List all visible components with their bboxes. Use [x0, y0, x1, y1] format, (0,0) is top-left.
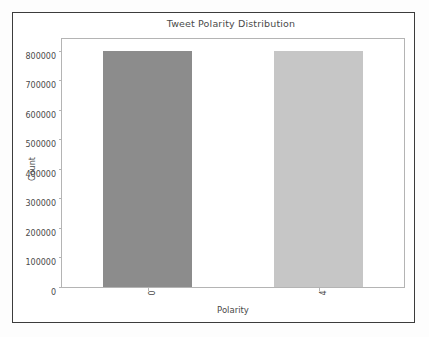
y-tick-label: 400000 [25, 169, 56, 178]
y-tick-mark [59, 110, 63, 111]
y-tick-label: 300000 [25, 199, 56, 208]
x-tick-label: 4 [319, 290, 328, 295]
y-tick-mark [59, 51, 63, 52]
y-tick-mark [59, 80, 63, 81]
y-tick-mark [59, 228, 63, 229]
chart-figure: Tweet Polarity Distribution Count 010000… [0, 0, 429, 337]
y-tick-label: 0 [51, 288, 56, 297]
y-tick-mark [59, 257, 63, 258]
y-tick-label: 500000 [25, 140, 56, 149]
y-tick-label: 600000 [25, 110, 56, 119]
y-tick-mark [59, 139, 63, 140]
x-axis-label: Polarity [61, 305, 405, 315]
y-tick-label: 100000 [25, 258, 56, 267]
y-tick-mark [59, 287, 63, 288]
y-tick-mark [59, 169, 63, 170]
y-tick-mark [59, 198, 63, 199]
plot-area: 0100000200000300000400000500000600000700… [61, 38, 405, 288]
y-tick-label: 200000 [25, 228, 56, 237]
bar-series [62, 39, 404, 287]
y-tick-label: 800000 [25, 51, 56, 60]
chart-title: Tweet Polarity Distribution [55, 18, 407, 29]
x-tick-label: 0 [148, 290, 157, 295]
bar [274, 51, 363, 287]
y-tick-label: 700000 [25, 81, 56, 90]
bar [103, 51, 192, 287]
